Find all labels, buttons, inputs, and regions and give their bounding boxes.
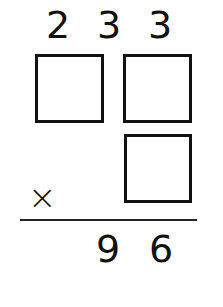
result-digit-1: 9 — [96, 230, 120, 268]
blank-box-tens[interactable] — [35, 54, 104, 123]
blank-box-ones[interactable] — [123, 54, 192, 123]
multiply-sign-icon: × — [28, 180, 57, 214]
blank-box-multiplier[interactable] — [124, 134, 192, 203]
top-digit-3: 3 — [148, 6, 172, 44]
result-digit-2: 6 — [149, 230, 173, 268]
top-digit-2: 3 — [97, 6, 121, 44]
result-divider-line — [20, 219, 197, 221]
top-digit-1: 2 — [46, 6, 70, 44]
